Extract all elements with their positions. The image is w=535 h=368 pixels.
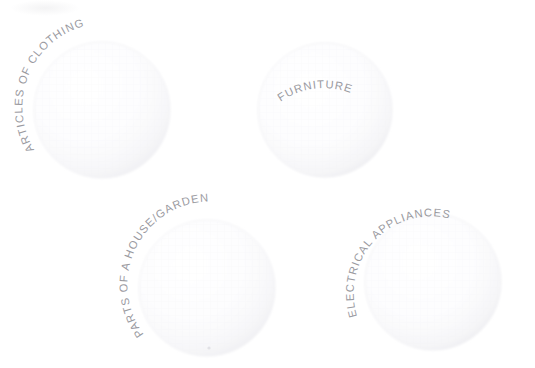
circle-texture-parts-of-a-house-garden <box>140 221 274 355</box>
circles-diagram: ARTICLES OF CLOTHING FURNITURE PARTS OF … <box>0 0 535 368</box>
circle-group-parts-of-a-house-garden[interactable]: PARTS OF A HOUSE/GARDEN <box>117 191 275 356</box>
circle-group-furniture[interactable]: FURNITURE <box>258 43 392 177</box>
circle-texture-articles-of-clothing <box>35 43 169 177</box>
circle-texture-furniture <box>259 44 391 176</box>
paper-speck <box>207 346 210 349</box>
circle-group-articles-of-clothing[interactable]: ARTICLES OF CLOTHING <box>12 16 170 178</box>
diagram-canvas: ARTICLES OF CLOTHING FURNITURE PARTS OF … <box>0 0 535 368</box>
circle-group-electrical-appliances[interactable]: ELECTRICAL APPLIANCES <box>344 206 501 350</box>
circle-texture-electrical-appliances <box>366 215 500 349</box>
